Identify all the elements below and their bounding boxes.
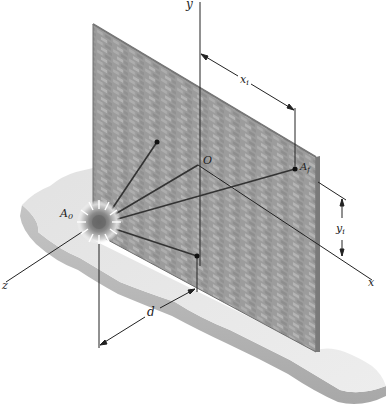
source-label-sub: 0 — [68, 212, 73, 221]
yi-extension-top — [318, 182, 346, 200]
target-label-main: A — [299, 161, 307, 172]
d-label: d — [147, 305, 155, 319]
wall-point-lower — [195, 254, 200, 259]
diagram-canvas: y O x z A0 Af xi yi d — [0, 0, 390, 414]
wall-right-edge — [316, 156, 320, 352]
burst-icon — [77, 200, 121, 244]
x-axis-label: x — [368, 276, 375, 289]
source-label-main: A — [59, 207, 68, 220]
yi-label-sub: i — [342, 227, 345, 236]
xi-label-sub: i — [246, 78, 249, 87]
wall-point-upper — [155, 140, 160, 145]
origin-label: O — [203, 154, 212, 167]
xi-label: xi — [240, 73, 249, 87]
z-axis-label: z — [1, 279, 8, 292]
y-axis-label: y — [185, 0, 193, 11]
yi-label: yi — [335, 222, 345, 236]
target-point-af — [293, 167, 298, 172]
